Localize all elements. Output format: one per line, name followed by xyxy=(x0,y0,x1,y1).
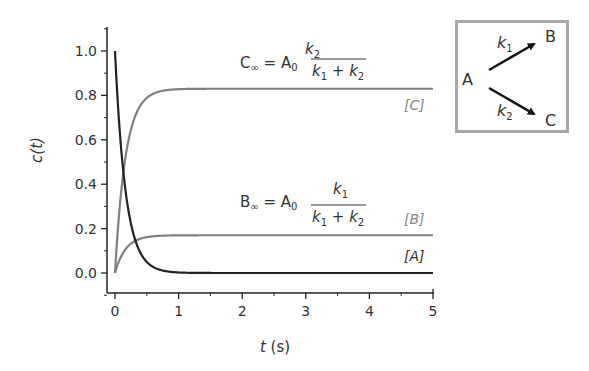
y-tick-label: 1.0 xyxy=(75,43,97,59)
x-tick-labels: 0 1 2 3 4 5 xyxy=(111,303,438,319)
reaction-kinetics-chart: 0.0 0.2 0.4 0.6 0.8 1.0 0 1 2 3 4 5 t (s… xyxy=(0,0,589,371)
x-tick-label: 5 xyxy=(429,303,438,319)
svg-text:B∞ = A0: B∞ = A0 xyxy=(240,193,297,212)
y-tick-label: 0.2 xyxy=(75,221,97,237)
b-inf-denominator: k1 + k2 xyxy=(312,208,364,228)
y-tick-label: 0.4 xyxy=(75,176,97,192)
c-inf-numerator: k2 xyxy=(305,40,320,60)
y-tick-label: 0.6 xyxy=(75,132,97,148)
b-inf-equation: B∞ = A0 k1 k1 + k2 xyxy=(240,180,366,228)
reaction-scheme-inset: A B C k1 k2 xyxy=(457,22,568,132)
b-inf-numerator: k1 xyxy=(333,180,348,200)
x-axis-title: t (s) xyxy=(260,338,290,356)
y-tick-labels: 0.0 0.2 0.4 0.6 0.8 1.0 xyxy=(75,43,97,281)
svg-text:C∞ = A0: C∞ = A0 xyxy=(240,54,298,73)
plot-axes: 0.0 0.2 0.4 0.6 0.8 1.0 0 1 2 3 4 5 t (s… xyxy=(28,27,437,356)
x-tick-label: 4 xyxy=(365,303,374,319)
species-c: C xyxy=(545,111,556,130)
curve-a xyxy=(115,51,433,273)
c-inf-denominator: k1 + k2 xyxy=(312,62,364,82)
curve-c xyxy=(115,89,433,273)
curve-label-c: [C] xyxy=(404,97,425,113)
y-axis-title: c(t) xyxy=(28,137,46,163)
curve-label-a: [A] xyxy=(404,248,425,264)
x-tick-label: 0 xyxy=(111,303,120,319)
species-b: B xyxy=(545,27,556,46)
x-tick-label: 1 xyxy=(174,303,183,319)
x-tick-label: 3 xyxy=(301,303,310,319)
y-tick-label: 0.8 xyxy=(75,87,97,103)
c-inf-equation: C∞ = A0 k2 k1 + k2 xyxy=(240,40,366,82)
curve-label-b: [B] xyxy=(404,211,425,227)
curve-b xyxy=(115,235,433,273)
y-tick-label: 0.0 xyxy=(75,265,97,281)
species-a: A xyxy=(462,70,473,89)
plot-curves xyxy=(115,51,433,273)
x-tick-label: 2 xyxy=(238,303,247,319)
